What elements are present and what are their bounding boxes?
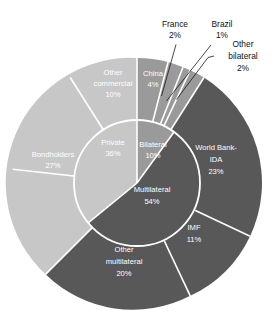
callout-france-value: 2% [169, 30, 182, 40]
callout-brazil-value: 1% [216, 30, 229, 40]
pie-chart: Bondholders 27% Other commercial 10% Chi… [0, 0, 275, 317]
callout-other-bilateral-line2: bilateral [228, 51, 257, 61]
callout-brazil-name: Brazil [212, 19, 233, 29]
pie-chart-svg: Bondholders 27% Other commercial 10% Chi… [0, 0, 275, 317]
callout-france-name: France [162, 19, 188, 29]
callout-other-bilateral-line1: Other [233, 39, 254, 49]
callout-other-bilateral-value: 2% [237, 63, 250, 73]
